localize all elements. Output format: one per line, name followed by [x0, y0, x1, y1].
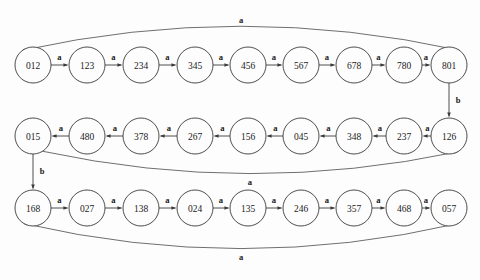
state-node-267[interactable]: 267: [177, 118, 213, 154]
state-node-045[interactable]: 045: [283, 118, 319, 154]
state-label-456: 456: [241, 61, 256, 71]
transition-label-138-024: a: [165, 195, 170, 205]
transition-label-015-168: b: [40, 166, 45, 176]
state-node-567[interactable]: 567: [283, 47, 319, 83]
state-node-378[interactable]: 378: [123, 118, 159, 154]
transition-label-348-045: a: [326, 123, 331, 133]
state-node-348[interactable]: 348: [336, 118, 372, 154]
transition-label-156-267: a: [220, 123, 225, 133]
automaton-diagram: aaa bb aaaaaaaaaaaaaaaaaaaaaaaa 01212323…: [0, 0, 480, 280]
state-node-135[interactable]: 135: [230, 190, 266, 226]
state-label-480: 480: [80, 132, 95, 142]
state-node-345[interactable]: 345: [177, 47, 213, 83]
transition-label-378-480: a: [113, 123, 118, 133]
transition-label-012-123: a: [57, 52, 62, 62]
state-label-015: 015: [26, 132, 41, 142]
state-node-357[interactable]: 357: [336, 190, 372, 226]
state-label-135: 135: [241, 204, 256, 214]
state-node-123[interactable]: 123: [69, 47, 105, 83]
state-label-138: 138: [134, 204, 149, 214]
state-label-345: 345: [188, 61, 203, 71]
state-label-267: 267: [188, 132, 203, 142]
state-label-468: 468: [397, 204, 412, 214]
state-node-801[interactable]: 801: [431, 47, 467, 83]
state-node-126[interactable]: 126: [431, 118, 467, 154]
transition-label-057-168: a: [239, 252, 244, 262]
state-label-348: 348: [347, 132, 362, 142]
transition-edge-057-168: [24, 224, 458, 249]
state-label-237: 237: [397, 132, 412, 142]
state-node-138[interactable]: 138: [123, 190, 159, 226]
transition-label-801-012: a: [239, 15, 244, 25]
state-node-468[interactable]: 468: [386, 190, 422, 226]
transition-label-246-357: a: [325, 195, 330, 205]
transition-label-123-234: a: [111, 52, 116, 62]
state-node-246[interactable]: 246: [283, 190, 319, 226]
state-label-780: 780: [397, 61, 412, 71]
state-label-156: 156: [241, 132, 256, 142]
transition-label-237-348: a: [378, 123, 383, 133]
transition-label-357-468: a: [376, 195, 381, 205]
state-node-480[interactable]: 480: [69, 118, 105, 154]
state-node-168[interactable]: 168: [15, 190, 51, 226]
state-label-234: 234: [134, 61, 149, 71]
transition-label-027-138: a: [111, 195, 116, 205]
state-label-126: 126: [442, 132, 457, 142]
transition-label-567-678: a: [325, 52, 330, 62]
transition-label-135-246: a: [272, 195, 277, 205]
transition-label-345-456: a: [219, 52, 224, 62]
transition-label-045-156: a: [273, 123, 278, 133]
state-label-678: 678: [347, 61, 362, 71]
transition-label-126-237: a: [425, 123, 430, 133]
transition-label-015-126: a: [248, 177, 253, 187]
state-label-357: 357: [347, 204, 362, 214]
state-node-015[interactable]: 015: [15, 118, 51, 154]
state-node-156[interactable]: 156: [230, 118, 266, 154]
state-node-456[interactable]: 456: [230, 47, 266, 83]
state-label-024: 024: [188, 204, 203, 214]
transition-label-480-015: a: [59, 123, 64, 133]
state-node-057[interactable]: 057: [431, 190, 467, 226]
transition-label-168-027: a: [57, 195, 62, 205]
transition-label-024-135: a: [219, 195, 224, 205]
state-label-801: 801: [442, 61, 457, 71]
state-label-027: 027: [80, 204, 95, 214]
state-label-057: 057: [442, 204, 457, 214]
transition-label-801-126: b: [456, 95, 461, 105]
transition-label-678-780: a: [376, 52, 381, 62]
transition-label-456-567: a: [272, 52, 277, 62]
state-node-027[interactable]: 027: [69, 190, 105, 226]
transition-label-234-345: a: [165, 52, 170, 62]
transition-label-468-057: a: [424, 195, 429, 205]
state-label-246: 246: [294, 204, 309, 214]
state-node-237[interactable]: 237: [386, 118, 422, 154]
state-label-012: 012: [26, 61, 41, 71]
automaton-canvas: aaa bb aaaaaaaaaaaaaaaaaaaaaaaa 01212323…: [0, 0, 480, 280]
state-node-024[interactable]: 024: [177, 190, 213, 226]
state-label-378: 378: [134, 132, 149, 142]
node-layer: 0121232343454565676787808010154803782671…: [15, 47, 467, 226]
state-label-168: 168: [26, 204, 41, 214]
state-label-567: 567: [294, 61, 309, 71]
state-label-045: 045: [294, 132, 309, 142]
transition-label-267-378: a: [167, 123, 172, 133]
state-label-123: 123: [80, 61, 95, 71]
state-node-012[interactable]: 012: [15, 47, 51, 83]
state-node-234[interactable]: 234: [123, 47, 159, 83]
state-node-678[interactable]: 678: [336, 47, 372, 83]
transition-edge-015-126: [43, 151, 458, 173]
transition-label-780-801: a: [424, 52, 429, 62]
state-node-780[interactable]: 780: [386, 47, 422, 83]
